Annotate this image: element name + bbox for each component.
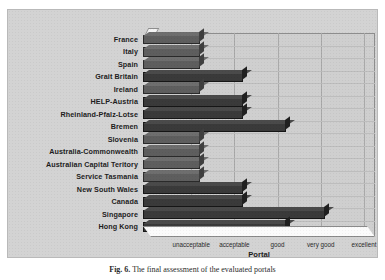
bar[interactable]	[143, 210, 325, 220]
bar[interactable]	[143, 122, 286, 132]
y-axis-label: Service Tasmania	[14, 171, 140, 184]
bar-end-face	[199, 78, 204, 91]
bar[interactable]	[143, 197, 243, 207]
bar-end-face	[199, 153, 204, 166]
y-axis-label: Italy	[14, 46, 140, 59]
figure-caption-text: The final assessment of the evaluated po…	[132, 266, 276, 274]
bar-top-face	[144, 107, 252, 111]
y-axis-label: Spain	[14, 58, 140, 71]
y-axis-label: Australian Capital Teritory	[14, 158, 140, 171]
bar-row	[143, 208, 375, 221]
x-axis-tick-label: unacceptable	[172, 242, 209, 248]
bar-top-face	[144, 195, 252, 199]
y-axis-label: Canada	[14, 196, 140, 209]
bar-top-face	[144, 220, 295, 224]
y-axis-label: Slovenia	[14, 133, 140, 146]
bar[interactable]	[143, 72, 243, 82]
figure: FranceItalySpainGrait BritainIrelandHELP…	[0, 0, 385, 280]
x-axis-tick-label: acceptable	[219, 242, 249, 248]
figure-caption: Fig. 6. The final assessment of the eval…	[0, 266, 385, 275]
plot-base-platform	[143, 226, 375, 237]
bar-end-face	[242, 103, 247, 116]
bar-end-face	[242, 178, 247, 191]
y-axis-label: Australia-Commonwealth	[14, 146, 140, 159]
y-axis-label: Grait Britain	[14, 71, 140, 84]
bar[interactable]	[143, 147, 200, 157]
y-axis-label: Rheinland-Pfalz-Lotse	[14, 108, 140, 121]
bar-top-face	[144, 95, 252, 99]
bar-row	[143, 33, 375, 46]
y-axis-label: HELP-Austria	[14, 96, 140, 109]
bar-end-face	[199, 128, 204, 141]
y-axis-label: France	[14, 33, 140, 46]
x-axis-tick-label: excellent	[352, 242, 377, 248]
y-axis-label: Bremen	[14, 121, 140, 134]
bar-top-face	[144, 70, 252, 74]
bar-top-face	[144, 120, 295, 124]
bar-row	[143, 133, 375, 146]
plot-area	[143, 28, 375, 241]
figure-caption-label: Fig. 6.	[109, 266, 130, 274]
y-axis-label: Singapore	[14, 208, 140, 221]
bar[interactable]	[143, 135, 200, 145]
bar-end-face	[199, 28, 204, 41]
x-axis-tick-label: very good	[307, 242, 335, 248]
y-axis-label: New South Wales	[14, 183, 140, 196]
bar[interactable]	[143, 85, 200, 95]
bar-series	[143, 33, 375, 233]
bar-end-face	[324, 203, 329, 216]
bar[interactable]	[143, 110, 243, 120]
bar-row	[143, 58, 375, 71]
bar-top-face	[144, 182, 252, 186]
bar-row	[143, 158, 375, 171]
bar-end-face	[242, 191, 247, 204]
bar[interactable]	[143, 172, 200, 182]
bar[interactable]	[143, 185, 243, 195]
bar-row	[143, 83, 375, 96]
bar[interactable]	[143, 97, 243, 107]
y-axis-label: Ireland	[14, 83, 140, 96]
x-axis-title: Portal	[143, 251, 375, 259]
chart-panel: FranceItalySpainGrait BritainIrelandHELP…	[7, 9, 378, 258]
x-axis-tick-label: good	[271, 242, 285, 248]
bar[interactable]	[143, 160, 200, 170]
bar-end-face	[242, 91, 247, 104]
y-axis-label: Hong Kong	[14, 221, 140, 234]
y-axis-category-labels: FranceItalySpainGrait BritainIrelandHELP…	[14, 33, 140, 233]
bar-end-face	[199, 53, 204, 66]
bar-end-face	[285, 116, 290, 129]
bar-end-face	[242, 66, 247, 79]
bar[interactable]	[143, 47, 200, 57]
bar-top-face	[144, 207, 334, 211]
bar-row	[143, 183, 375, 196]
bar[interactable]	[143, 60, 200, 70]
bar-row	[143, 108, 375, 121]
bar[interactable]	[143, 35, 200, 45]
